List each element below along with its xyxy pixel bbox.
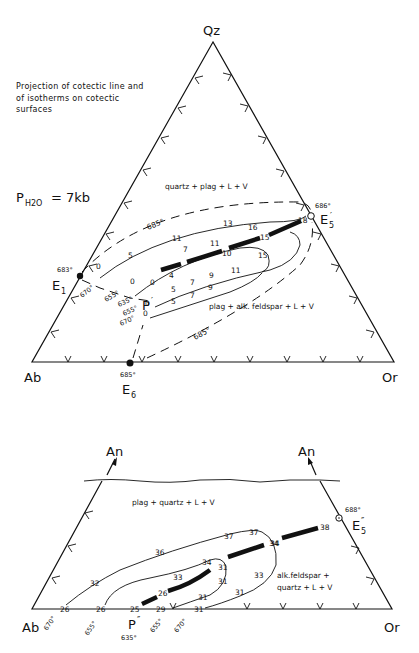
base-26a: 26 [60,605,70,614]
temp-685-upper: 685° [145,217,165,232]
note-line-3: surfaces [16,105,52,114]
base-26b: 26 [96,605,106,614]
lc-31: 31 [218,577,228,586]
svg-text:686°: 686° [315,202,331,210]
svg-text:688°: 688° [345,506,361,514]
lower-vertex-or: Or [384,620,400,635]
base-25: 25 [130,605,140,614]
label-7: 7 [183,245,188,254]
cot-0: 0 [150,278,155,287]
field-alkfeldspar-quartz-1: alk.feldspar + [277,571,330,580]
svg-text:= 7kb: = 7kb [51,190,90,205]
c-31a: 31 [218,563,228,572]
field-alkfeldspar-quartz-2: quartz + L + V [277,583,333,592]
label-11: 11 [172,234,182,243]
l655-7: 7 [190,278,195,287]
label-0: 0 [96,262,101,271]
svg-text:′: ′ [151,296,153,306]
cot-15: 15 [260,233,270,242]
label-e5-prime: 686° E ′ 5 [315,202,334,230]
svg-text:P: P [128,617,136,632]
label-p-prime: P ′ [142,296,153,313]
upper-ternary-diagram: Projection of cotectic line and of isoth… [16,23,398,400]
svg-text:P: P [142,298,150,313]
label-11b: 11 [210,239,220,248]
field-plag-quartz: plag + quartz + L + V [132,498,216,507]
base-temp-655-right: 655° [148,617,164,634]
arrow-label-an-left: An [106,444,123,459]
svg-text:E: E [122,382,130,397]
note-line-2: of isotherms on cotectic [16,94,120,103]
temp-670-low: 670° [118,314,136,328]
point-e5-prime [308,213,315,220]
cot-4: 4 [169,271,174,280]
lower-vertex-ab: Ab [22,620,39,635]
l655-11: 11 [231,266,241,275]
pressure-label: P H2O = 7kb [16,190,90,208]
label-13: 13 [223,219,233,228]
label-0b: 0 [130,277,135,286]
field-quartz-plag: quartz + plag + L + V [165,182,249,191]
base-temp-670-right: 670° [172,617,188,634]
l670-7: 7 [190,291,195,300]
base-31: 31 [194,605,204,614]
svg-text:E: E [52,278,60,293]
svg-text:H2O: H2O [25,199,42,208]
lower-projection-diagram: An An Ab Or plag + quartz + L + V alk.fe… [22,444,400,642]
point-e6 [127,360,134,367]
vertex-ab: Ab [24,370,41,385]
base-temp-655-left: 655° [83,620,99,637]
arrow-an-left [107,459,115,475]
vertex-qz: Qz [203,23,220,38]
base-29: 29 [156,605,166,614]
l655-9: 9 [209,271,214,280]
svg-text:685°: 685° [120,371,136,379]
cot-10: 10 [222,249,232,258]
svg-text:E: E [352,518,360,533]
lc-26: 26 [158,589,168,598]
temp-685-lower: 685° [192,325,212,342]
c-36: 36 [155,548,165,557]
vertex-or: Or [382,370,398,385]
phase-diagram: Projection of cotectic line and of isoth… [0,0,419,653]
contour-670-lower [150,273,262,318]
l655-15: 15 [258,251,268,260]
svg-text:′: ′ [330,211,332,221]
c-32: 32 [90,579,100,588]
cotectic-line [161,221,301,270]
temp-670-left: 670° [78,284,95,300]
field-plag-alkfeldspar: plag + alk. feldspar + L + V [209,302,315,311]
c-31b: 31 [198,593,208,602]
base-temp-670-left: 670° [42,615,58,632]
svg-text:635°: 635° [121,634,137,642]
svg-text:6: 6 [131,391,136,400]
svg-text:5: 5 [361,527,366,536]
point-e1 [77,273,83,279]
svg-text:″: ″ [137,615,141,625]
label-16: 16 [248,223,258,232]
svg-text:P: P [16,190,24,205]
note-line-1: Projection of cotectic line and [16,82,144,91]
arrow-label-an-right: An [298,444,315,459]
c-34b: 33 [254,571,264,580]
label-e6: 685° E 6 [120,371,136,400]
l670-9: 9 [208,283,213,292]
c-37a: 37 [224,532,234,541]
label-5: 5 [128,251,133,260]
c-37b: 37 [249,528,259,537]
svg-text:1: 1 [61,287,66,296]
boundary-e6 [133,325,143,358]
label-e1: 683° E 1 [52,266,73,296]
c-34c: 34 [202,558,212,567]
wavy-break-line [84,479,340,482]
cot-18: 18 [298,216,308,225]
svg-text:E: E [320,212,328,227]
svg-text:″: ″ [361,516,365,526]
l655-5: 5 [171,285,176,294]
contour-outer-670 [66,530,276,608]
c-33b: 31 [235,588,245,597]
lc-38: 38 [320,523,330,532]
svg-text:5: 5 [329,221,334,230]
svg-text:683°: 683° [57,266,73,274]
lc-34: 34 [270,539,280,548]
